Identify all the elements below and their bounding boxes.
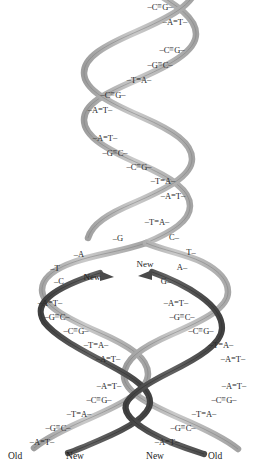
base-pair: –G≡C–: [169, 312, 194, 321]
double-bond-icon: =: [106, 355, 111, 364]
backbone-tick-right: –: [66, 422, 70, 432]
triple-bond-icon: ≡: [181, 424, 186, 433]
dna-replication-figure: –C≡G––A=T––C≡G––G≡C––T=A––C≡G––A=T––A=T–…: [0, 0, 254, 465]
backbone-tick-right: –: [116, 353, 120, 363]
triple-bond-icon: ≡: [198, 327, 203, 336]
right-new-strand-tip: [138, 270, 152, 280]
double-bond-icon: =: [201, 410, 206, 419]
backbone-tick-right: –: [168, 1, 172, 11]
backbone-tick-right: –: [117, 380, 121, 390]
unpaired-base: –C: [54, 277, 64, 286]
backbone-tick-right: –: [123, 147, 127, 157]
unpaired-base: –A: [74, 250, 84, 259]
base-pair: –A=T–: [164, 298, 189, 307]
backbone-tick-right: –: [58, 297, 62, 307]
parent-strand-b: [84, 0, 196, 238]
backbone-tick-right: –: [147, 74, 151, 84]
triple-bond-icon: ≡: [169, 46, 174, 55]
backbone-tick: –: [167, 276, 171, 286]
base-pair: –G≡C–: [45, 423, 70, 432]
base-pair: –A=T–: [96, 354, 121, 363]
base-pair: –T=A–: [84, 340, 109, 349]
backbone-tick-right: –: [212, 408, 216, 418]
base-pair: –G≡C–: [170, 423, 195, 432]
base-pair: –G≡C–: [102, 148, 127, 157]
triple-bond-icon: ≡: [55, 313, 60, 322]
base-pair: –T=A–: [127, 75, 152, 84]
backbone-tick-right: –: [165, 216, 169, 226]
backbone-tick-right: –: [171, 175, 175, 185]
backbone-tick-right: –: [108, 104, 112, 114]
backbone-tick-right: –: [168, 59, 172, 69]
left-new-strand-tip: [100, 271, 114, 281]
parent-strand-a: [84, 0, 196, 243]
double-bond-icon: =: [154, 218, 159, 227]
triple-bond-icon: ≡: [180, 313, 185, 322]
backbone-tick-right: –: [184, 297, 188, 307]
backbone-tick-right: –: [175, 436, 179, 446]
strand-legend-label: Old: [208, 452, 222, 462]
double-bond-icon: =: [107, 382, 112, 391]
backbone-tick-right: –: [190, 311, 194, 321]
base-pair: –A=T–: [38, 298, 63, 307]
backbone-tick-right: –: [65, 311, 69, 321]
backbone-tick: –: [191, 247, 195, 257]
new-strand-label: New: [84, 273, 101, 282]
backbone-tick-right: –: [147, 161, 151, 171]
triple-bond-icon: ≡: [221, 396, 226, 405]
triple-bond-icon: ≡: [158, 61, 163, 70]
base-pair: –A=T–: [97, 381, 122, 390]
double-bond-icon: =: [174, 299, 179, 308]
double-bond-icon: =: [48, 299, 53, 308]
base-pair: –C≡G–: [100, 90, 125, 99]
triple-bond-icon: ≡: [73, 327, 78, 336]
double-bond-icon: =: [231, 355, 236, 364]
base-pair: –A=T–: [155, 437, 180, 446]
backbone-tick-right: –: [241, 353, 245, 363]
backbone-tick-right: –: [84, 325, 88, 335]
unpaired-base: C–: [169, 233, 179, 242]
backbone-tick-right: –: [104, 339, 108, 349]
base-pair: –A=T–: [88, 105, 113, 114]
double-bond-icon: =: [232, 382, 237, 391]
double-bond-icon: =: [218, 341, 223, 350]
double-bond-icon: =: [136, 76, 141, 85]
base-pair: –A=T–: [221, 354, 246, 363]
base-pair: –T=A–: [209, 340, 234, 349]
base-letter: T: [55, 263, 60, 273]
backbone-tick-right: –: [87, 408, 91, 418]
triple-bond-icon: ≡: [96, 396, 101, 405]
base-pair: –T=A–: [145, 217, 170, 226]
base-pair: –T=A–: [151, 176, 176, 185]
base-pair: –A=T–: [163, 17, 188, 26]
base-pair: –T=A–: [192, 409, 217, 418]
base-letter: C: [58, 276, 64, 286]
backbone-tick: –: [183, 262, 187, 272]
double-bond-icon: =: [93, 341, 98, 350]
base-pair: –A=T–: [93, 133, 118, 142]
backbone-tick-right: –: [180, 44, 184, 54]
strand-legend-label: New: [146, 452, 164, 462]
base-letter: G: [117, 233, 123, 243]
unpaired-base: –G: [113, 234, 123, 243]
base-pair: –C≡G–: [159, 45, 184, 54]
backbone-tick-right: –: [229, 339, 233, 349]
backbone-tick-right: –: [232, 394, 236, 404]
backbone-tick-right: –: [107, 394, 111, 404]
base-pair: –G≡C–: [44, 312, 69, 321]
backbone-tick-right: –: [181, 190, 185, 200]
double-bond-icon: =: [173, 18, 178, 27]
base-pair: –C≡G–: [147, 2, 172, 11]
base-pair: –T=A–: [67, 409, 92, 418]
triple-bond-icon: ≡: [136, 163, 141, 172]
base-pair: –C≡G–: [188, 326, 213, 335]
backbone-tick-right: –: [209, 325, 213, 335]
double-bond-icon: =: [98, 106, 103, 115]
backbone-tick-right: –: [191, 422, 195, 432]
unpaired-base: A–: [177, 263, 187, 272]
backbone-tick-right: –: [121, 89, 125, 99]
base-pair: –C≡G–: [211, 395, 236, 404]
base-pair: –A=T–: [30, 437, 55, 446]
base-letter: A: [78, 249, 84, 259]
backbone-tick: –: [175, 232, 179, 242]
